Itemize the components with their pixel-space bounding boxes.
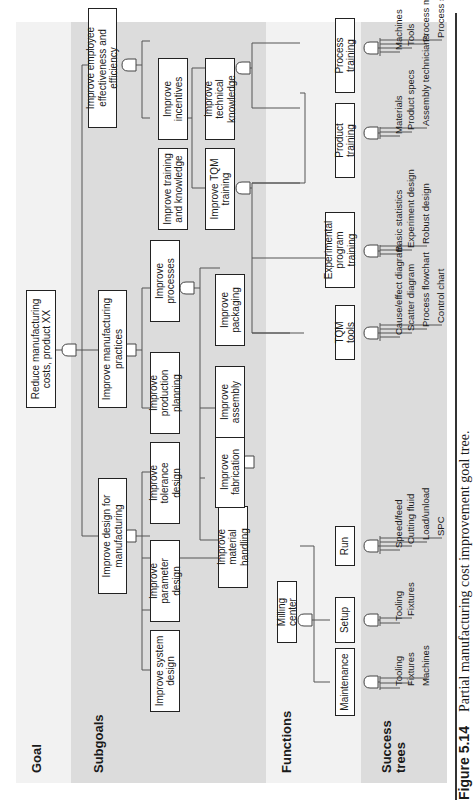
subgoal-parameter-design: Improve parameter design [150,540,180,622]
leaf-run-spc: SPC [435,516,446,536]
leaf-exp-robust-design: Robust design [420,183,431,244]
leaf-prod-specs: Product specs [405,70,416,130]
leaf-run-cutting-fluid: Cutting fluid [405,494,416,544]
subgoal-production-planning: Improve production planning [150,352,180,434]
leaf-maint-machines: Machines [420,645,431,686]
function-setup: Setup [335,597,355,643]
subgoal-system-design: Improve system design [150,630,180,712]
figure-caption: Figure 5.14Partial manufacturing cost im… [456,431,473,800]
subgoal-packaging: Improve packaging [215,274,245,346]
figure-caption-text: Partial manufacturing cost improvement g… [457,431,472,712]
subgoal-emp: Improve employee effectiveness and effic… [88,8,117,128]
function-run: Run [335,526,355,566]
leaf-proc-specs: Process specs [435,0,446,38]
subgoal-mp: Improve manufacturing practices [98,290,127,408]
leaf-proc-machines: Machines [393,9,404,50]
leaf-proc-tools: Tools [405,24,416,46]
leaf-exp-experiment-design: Experiment design [405,169,416,248]
leaf-prod-assembly-tech: Assembly technicians [420,35,431,126]
leaf-prod-materials: Materials [393,95,404,134]
subgoal-material-handling: Improve material handling [218,506,248,588]
leaf-tqm-flowchart: Process flowchart [420,252,431,327]
leaf-run-speed-feed: Speed/feed [393,499,404,548]
subgoal-tolerance-design: Improve tolerance design [150,442,180,524]
leaf-tqm-cause-effect: Cause/effect diagram [393,245,404,335]
figure-number: Figure 5.14 [456,726,472,800]
subgoal-technical-knowledge: Improve technical knowledge [205,58,235,140]
leaf-setup-fixtures: Fixtures [405,582,416,616]
leaf-setup-tooling: Tooling [393,591,404,621]
function-process-training: Process training [335,18,355,93]
subgoal-tqm-training: Improve TQM training [205,148,235,230]
leaf-maint-tooling: Tooling [393,656,404,686]
leaf-tqm-control-chart: Control chart [435,269,446,323]
leaf-run-load-unload: Load/unload [420,488,431,540]
goal-tree-figure: Goal Subgoals Functions Success trees [0,0,473,808]
subgoal-training-knowledge: Improve training and knowledge [158,148,188,230]
leaf-maint-fixtures: Fixtures [405,652,416,686]
leaf-tqm-scatter: Scatter diagram [405,264,416,331]
subgoal-processes: Improve processes [150,240,180,322]
goal-box: Reduce manufacturing costs, product XX [26,290,56,408]
subgoal-incentives: Improve incentives [158,58,188,140]
subgoal-dfm: Improve design for manufacturing [98,478,127,594]
function-maintenance: Maintenance [335,648,355,716]
function-experimental-training: Experimental program training [325,212,355,288]
function-product-training: Product training [335,103,355,178]
function-milling-center: Milling center [277,581,297,643]
leaf-proc-methods: Process methods [420,0,431,42]
function-tqm-tools: TQM tools [335,305,355,360]
subgoal-fabrication: Improve fabrication [215,436,245,508]
subgoal-assembly: Improve assembly [215,366,245,438]
leaf-exp-basic-stats: Basic statistics [393,190,404,252]
